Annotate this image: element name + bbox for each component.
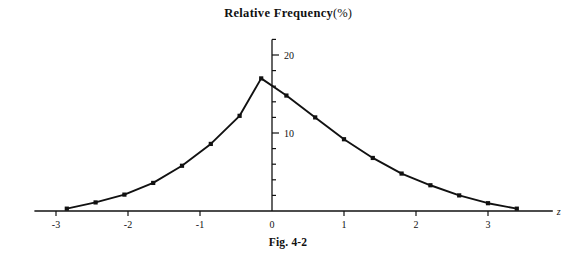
y-tick-label: 10 [284,128,294,139]
data-point-marker [371,156,375,160]
data-point-marker [515,207,519,211]
data-point-marker [209,142,213,146]
data-series-layer [65,76,519,210]
data-point-marker [428,183,432,187]
data-point-marker [180,164,184,168]
frequency-polygon-line [67,78,517,208]
frequency-polygon-plot: -3-2-101231020z [0,0,576,261]
data-point-marker [122,193,126,197]
data-point-marker [400,171,404,175]
x-axis-name: z [556,206,561,217]
y-tick-label: 20 [284,50,294,61]
x-tick-label: 3 [486,219,491,230]
data-point-marker [457,193,461,197]
x-tick-label: 2 [414,219,419,230]
data-point-marker [486,201,490,205]
data-point-marker [238,114,242,118]
data-point-marker [342,137,346,141]
x-tick-label: 1 [342,219,347,230]
data-point-marker [94,200,98,204]
x-tick-label: -2 [124,219,132,230]
x-tick-label: -1 [196,219,204,230]
data-point-marker [284,93,288,97]
x-tick-label: 0 [270,219,275,230]
data-point-marker [259,76,263,80]
figure-caption: Fig. 4-2 [0,236,576,248]
data-point-marker [151,181,155,185]
x-tick-label: -3 [52,219,60,230]
data-point-marker [313,115,317,119]
figure-container: Relative Frequency(%) -3-2-101231020z Fi… [0,0,576,261]
data-point-marker [65,207,69,211]
